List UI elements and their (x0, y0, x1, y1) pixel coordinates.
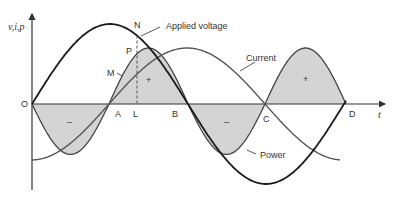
current-label: Current (246, 53, 277, 63)
point-p-label: P (126, 46, 132, 56)
power-area-3 (188, 104, 265, 154)
point-a-label: A (115, 109, 121, 119)
point-d-label: D (349, 109, 356, 119)
point-n-label: N (134, 20, 141, 30)
power-leader-line (247, 150, 256, 154)
power-area-1 (32, 104, 109, 154)
current-leader-line (240, 62, 255, 71)
ac-power-diagram: v,i,p t O A L B C D N P M Applied voltag… (0, 0, 395, 197)
point-c-label: C (263, 114, 270, 124)
positive-area-sign-1: + (146, 75, 151, 85)
point-l-label: L (133, 109, 138, 119)
voltage-leader-line (141, 27, 160, 36)
positive-area-sign-2: + (303, 74, 308, 84)
voltage-label: Applied voltage (166, 21, 228, 31)
point-m-label: M (107, 68, 115, 78)
power-label: Power (260, 150, 286, 160)
waveform-canvas: v,i,p t O A L B C D N P M Applied voltag… (0, 0, 395, 197)
x-axis-label: t (378, 109, 381, 120)
negative-area-sign-1: – (67, 117, 72, 127)
m-leader-line (117, 73, 122, 76)
point-b-label: B (172, 109, 178, 119)
negative-area-sign-2: – (224, 117, 229, 127)
origin-label: O (21, 99, 28, 109)
y-axis-label: v,i,p (8, 21, 24, 32)
